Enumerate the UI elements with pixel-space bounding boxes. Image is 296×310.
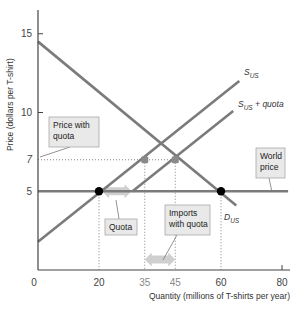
equilibrium-dot (217, 187, 225, 195)
world-price-annotation: Worldprice (256, 148, 285, 192)
x-tick-label: 0 (31, 277, 37, 288)
quota-point-square (172, 156, 179, 163)
leader-line (116, 200, 119, 219)
y-tick-label: 5 (26, 186, 32, 197)
equilibrium-dot (95, 187, 103, 195)
quota-annotation: Quota (105, 200, 137, 235)
annotation-text: World (260, 151, 282, 161)
annotation-text: quota (53, 131, 75, 141)
quota-point-square (141, 156, 148, 163)
x-tick-label: 45 (170, 277, 182, 288)
price-with-quota-annotation: Price withquota (40, 117, 99, 157)
s-us-quota-curve (133, 111, 234, 191)
imports-with-quota-annotation: Importswith quota (163, 205, 210, 260)
x-tick-label: 20 (93, 277, 105, 288)
y-axis-title: Price (dollars per T-shirt) (5, 58, 15, 151)
y-tick-label: 15 (21, 28, 33, 39)
y-tick-label: 10 (21, 107, 33, 118)
annotation-text: price (260, 162, 279, 172)
y-tick-label: 7 (26, 154, 32, 165)
annotation-text: with quota (168, 219, 208, 229)
x-tick-label: 35 (139, 277, 151, 288)
s-us-plus-quota-label: SUS + quota (238, 99, 284, 111)
annotation-text: Quota (109, 222, 132, 232)
x-tick-label: 80 (276, 277, 288, 288)
x-tick-label: 60 (215, 277, 227, 288)
annotation-text: Imports (169, 208, 197, 218)
leader-line (269, 178, 272, 192)
annotation-text: Price with (53, 120, 90, 130)
s-us-label: SUS (244, 67, 259, 79)
leader-line (40, 147, 70, 157)
tariff-quota-chart: 57101502035456080Quantity (millions of T… (0, 0, 296, 310)
imports-with-quota-arrow-icon (145, 252, 176, 266)
d-us-label: DUS (224, 212, 240, 224)
x-axis-title: Quantity (millions of T-shirts per year) (149, 291, 290, 301)
